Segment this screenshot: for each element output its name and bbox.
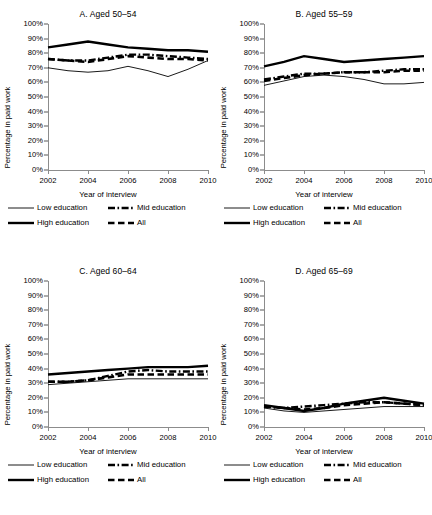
y-tick-label: 50%: [244, 93, 259, 101]
y-tick-label: 40%: [244, 365, 259, 373]
x-axis-label: Year of interview: [0, 190, 216, 199]
y-tick-label: 90%: [244, 292, 259, 300]
legend-swatch-low: [224, 460, 250, 470]
y-tick-label: 70%: [28, 64, 43, 72]
y-tick-label: 80%: [28, 49, 43, 57]
chart-panel-a: A. Aged 50–54 Percentage in paid work100…: [0, 0, 216, 257]
x-tick-label: 2006: [336, 176, 353, 185]
legend-label-low: Low education: [37, 203, 87, 212]
y-tick-label: 30%: [28, 379, 43, 387]
y-tick-label: 10%: [244, 409, 259, 417]
legend-row: Low educationMid education: [224, 457, 424, 472]
legend-row: High educationAll: [8, 472, 208, 487]
x-axis-label: Year of interview: [0, 447, 216, 456]
legend-a: Low educationMid educationHigh education…: [8, 200, 208, 230]
panel-title-b: B. Aged 55–59: [216, 9, 432, 19]
legend-swatch-wrap-all: [108, 475, 134, 485]
legend-item-mid: Mid education: [108, 203, 208, 213]
legend-swatch-all: [108, 475, 134, 485]
legend-item-mid: Mid education: [324, 460, 424, 470]
legend-swatch-wrap-all: [108, 218, 134, 228]
x-tick-label: 2008: [160, 433, 177, 442]
legend-swatch-wrap-low: [8, 460, 34, 470]
figure-panel-grid: A. Aged 50–54 Percentage in paid work100…: [0, 0, 432, 515]
legend-swatch-high: [224, 475, 250, 485]
legend-c: Low educationMid educationHigh education…: [8, 457, 208, 487]
legend-swatch-all: [324, 475, 350, 485]
legend-swatch-wrap-low: [224, 203, 250, 213]
y-tick-label: 40%: [244, 108, 259, 116]
legend-swatch-low: [8, 203, 34, 213]
legend-swatch-mid: [108, 460, 134, 470]
y-tick-label: 10%: [244, 152, 259, 160]
legend-swatch-mid: [108, 203, 134, 213]
x-tick-label: 2010: [416, 433, 432, 442]
y-tick-label: 60%: [244, 79, 259, 87]
y-tick-label: 20%: [28, 394, 43, 402]
series-line-high: [264, 56, 424, 66]
legend-d: Low educationMid educationHigh education…: [224, 457, 424, 487]
y-tick-label: 60%: [28, 336, 43, 344]
legend-swatch-wrap-all: [324, 475, 350, 485]
legend-label-high: High education: [37, 218, 89, 227]
legend-label-all: All: [137, 475, 146, 484]
y-tick-label: 20%: [244, 137, 259, 145]
x-tick-label: 2006: [336, 433, 353, 442]
y-tick-label: 70%: [28, 321, 43, 329]
y-tick-label: 60%: [28, 79, 43, 87]
x-tick-label: 2004: [296, 433, 313, 442]
x-tick-label: 2002: [40, 433, 57, 442]
legend-item-all: All: [108, 218, 208, 228]
legend-swatch-wrap-all: [324, 218, 350, 228]
legend-label-high: High education: [253, 475, 305, 484]
legend-swatch-wrap-low: [8, 203, 34, 213]
x-axis-ticks: 20022004200620082010: [264, 427, 424, 449]
y-tick-label: 20%: [28, 137, 43, 145]
y-tick-label: 100%: [24, 20, 43, 28]
legend-item-all: All: [324, 475, 424, 485]
chart-panel-c: C. Aged 60–64 Percentage in paid work100…: [0, 257, 216, 515]
x-tick-label: 2004: [296, 176, 313, 185]
legend-row: Low educationMid education: [224, 200, 424, 215]
y-tick-label: 70%: [244, 321, 259, 329]
legend-swatch-mid: [324, 203, 350, 213]
x-axis-label: Year of interview: [216, 190, 432, 199]
legend-row: High educationAll: [8, 215, 208, 230]
legend-item-mid: Mid education: [108, 460, 208, 470]
x-tick-label: 2008: [376, 433, 393, 442]
y-tick-label: 90%: [28, 292, 43, 300]
legend-item-low: Low education: [8, 460, 108, 470]
legend-swatch-high: [8, 475, 34, 485]
y-axis-label-text: Percentage in paid work: [220, 343, 229, 424]
y-tick-label: 100%: [240, 20, 259, 28]
legend-swatch-all: [324, 218, 350, 228]
y-tick-label: 10%: [28, 409, 43, 417]
legend-item-low: Low education: [224, 460, 324, 470]
y-tick-label: 0%: [32, 423, 43, 431]
legend-item-all: All: [324, 218, 424, 228]
x-tick-label: 2002: [256, 176, 273, 185]
y-axis-ticks: 100%90%80%70%60%50%40%30%20%10%0%: [14, 24, 48, 196]
legend-b: Low educationMid educationHigh education…: [224, 200, 424, 230]
legend-label-mid: Mid education: [137, 460, 186, 469]
legend-swatch-wrap-mid: [324, 203, 350, 213]
series-line-low: [48, 61, 208, 77]
legend-item-low: Low education: [8, 203, 108, 213]
y-tick-label: 10%: [28, 152, 43, 160]
x-tick-label: 2006: [120, 176, 137, 185]
plot-area-a: Percentage in paid work100%90%80%70%60%5…: [0, 24, 216, 196]
x-axis-ticks: 20022004200620082010: [264, 170, 424, 192]
legend-label-high: High education: [253, 218, 305, 227]
legend-label-low: Low education: [253, 460, 303, 469]
y-axis-label-text: Percentage in paid work: [4, 86, 13, 167]
legend-item-mid: Mid education: [324, 203, 424, 213]
y-tick-label: 0%: [248, 166, 259, 174]
y-tick-label: 30%: [244, 379, 259, 387]
legend-swatch-wrap-mid: [108, 460, 134, 470]
legend-label-mid: Mid education: [137, 203, 186, 212]
legend-swatch-high: [224, 218, 250, 228]
legend-swatch-wrap-high: [224, 218, 250, 228]
legend-row: High educationAll: [224, 472, 424, 487]
y-axis-ticks: 100%90%80%70%60%50%40%30%20%10%0%: [14, 281, 48, 453]
legend-swatch-all: [108, 218, 134, 228]
